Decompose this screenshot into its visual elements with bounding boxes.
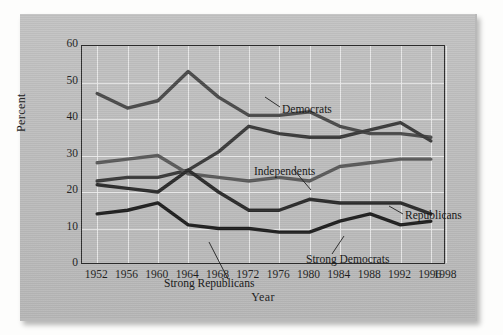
leader-line: [294, 170, 311, 190]
x-tick-label: 1998: [425, 268, 465, 280]
y-tick-label: 0: [46, 256, 78, 268]
y-tick-label: 20: [46, 183, 78, 195]
x-axis-label: Year: [81, 290, 445, 305]
y-axis-label: Percent: [14, 93, 29, 132]
y-axis-ticks: 0102030405060: [40, 45, 78, 264]
y-tick-label: 10: [46, 220, 78, 232]
y-tick-label: 40: [46, 110, 78, 122]
gridline-vertical: [446, 46, 447, 263]
y-tick-label: 30: [46, 147, 78, 159]
leader-line: [265, 97, 280, 107]
annotation-leader-lines: [82, 46, 446, 265]
figure-page: 0102030405060 Percent DemocratsIndepende…: [20, 14, 475, 319]
leader-line: [332, 236, 344, 254]
x-axis-ticks: 1952195619601964196819721976198019841988…: [81, 268, 445, 288]
y-tick-label: 60: [46, 37, 78, 49]
leader-line: [389, 206, 403, 214]
plot-area: DemocratsIndependentsRepublicansStrong D…: [81, 45, 445, 264]
y-tick-label: 50: [46, 74, 78, 86]
